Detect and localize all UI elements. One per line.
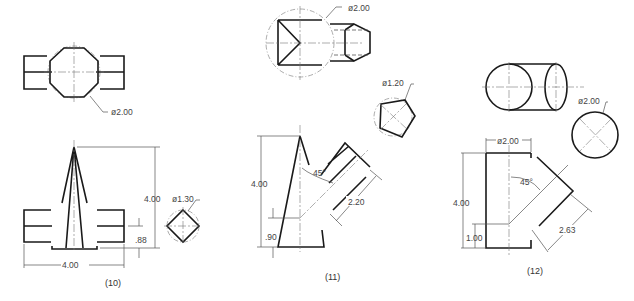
fig12-top-diameter-label: ø2.00 <box>578 96 600 106</box>
fig11-small-diameter-label: ø1.20 <box>382 78 404 88</box>
fig11-height-label: 4.00 <box>251 179 268 189</box>
fig12-branch-length-label: 2.63 <box>559 225 576 235</box>
fig10-caption: (10) <box>105 278 121 288</box>
fig12-side-view <box>482 62 584 112</box>
fig10-small-diameter-label: ø1.30 <box>172 194 194 204</box>
fig10-width-label: 4.00 <box>62 260 79 270</box>
fig11-front-view: 4.00 .90 45° 2.20 (11) <box>251 125 382 282</box>
fig10-top-view: ø2.00 <box>24 42 133 117</box>
drawing-sheet: ø2.00 4.00 .88 4.00 (10) <box>0 0 634 301</box>
fig10-height-label: 4.00 <box>144 194 161 204</box>
fig10-offset-label: .88 <box>135 235 147 245</box>
fig10-top-diameter-label: ø2.00 <box>111 107 133 117</box>
fig12-front-view: ø2.00 4.00 1.00 45° 2.63 (12) <box>453 135 592 276</box>
fig12-end-view: ø2.00 <box>572 96 618 158</box>
fig11-caption: (11) <box>325 272 340 282</box>
fig12-angle-label: 45° <box>520 177 533 187</box>
fig11-branch-length-label: 2.20 <box>348 197 365 207</box>
fig11-angle-label: 45° <box>313 168 326 178</box>
fig12-offset-label: 1.00 <box>466 233 483 243</box>
fig11-offset-label: .90 <box>265 232 277 242</box>
figure-10: ø2.00 4.00 .88 4.00 (10) <box>24 42 202 288</box>
fig12-height-label: 4.00 <box>453 198 470 208</box>
fig12-caption: (12) <box>527 266 543 276</box>
fig11-top-diameter-label: ø2.00 <box>348 3 370 13</box>
figure-12: ø2.00 ø2.00 4.00 1.00 45° 2.63 (12) <box>453 62 618 276</box>
fig11-aux-view: ø1.20 <box>374 78 415 137</box>
fig12-side-diameter-label: ø2.00 <box>497 136 519 146</box>
figure-11: ø2.00 4.00 .90 45° 2.20 (11) <box>251 3 415 282</box>
fig11-top-view: ø2.00 <box>266 3 370 80</box>
fig10-front-view: 4.00 .88 4.00 (10) <box>24 140 161 288</box>
fig10-side-view: ø1.30 <box>164 194 202 245</box>
